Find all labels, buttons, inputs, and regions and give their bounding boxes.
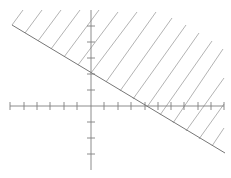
inequality-graph	[0, 0, 231, 178]
hatch-region	[12, 10, 224, 146]
axes	[10, 10, 224, 170]
boundary-line	[12, 25, 225, 153]
